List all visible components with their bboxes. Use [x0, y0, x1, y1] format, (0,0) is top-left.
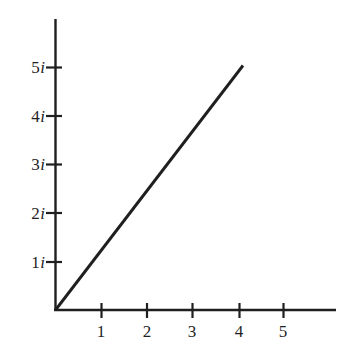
x-tick-label-5: 5: [279, 323, 288, 340]
y-tick-number: 2: [31, 204, 40, 223]
y-tick-unit: i: [40, 204, 45, 223]
y-tick-number: 3: [31, 155, 40, 174]
x-tick-label-3: 3: [188, 323, 197, 340]
y-tick-unit: i: [40, 58, 45, 77]
y-tick-number: 4: [31, 107, 40, 126]
x-tick-label-2: 2: [143, 323, 152, 340]
y-tick-label-4i: 4i: [31, 108, 45, 125]
data-line-series-0: [56, 66, 244, 311]
y-tick-unit: i: [40, 155, 45, 174]
y-tick-label-1i: 1i: [31, 254, 45, 271]
y-tick-unit: i: [40, 253, 45, 272]
complex-plane-figure: 1i 2i 3i 4i 5i 1 2 3 4 5: [0, 0, 351, 353]
x-tick-label-4: 4: [235, 323, 244, 340]
y-tick-label-3i: 3i: [31, 156, 45, 173]
plot-canvas: [0, 0, 351, 353]
x-tick-label-1: 1: [97, 323, 106, 340]
y-tick-unit: i: [40, 107, 45, 126]
y-tick-label-5i: 5i: [31, 59, 45, 76]
y-tick-number: 1: [31, 253, 40, 272]
y-axis-ticks: [46, 68, 62, 263]
y-tick-label-2i: 2i: [31, 205, 45, 222]
y-tick-number: 5: [31, 58, 40, 77]
